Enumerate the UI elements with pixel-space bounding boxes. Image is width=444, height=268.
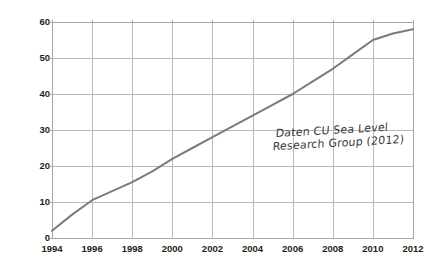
x-tick-label: 2006 <box>271 243 315 254</box>
x-tick-label: 2000 <box>150 243 194 254</box>
x-tick-label: 1994 <box>30 243 74 254</box>
x-tick-label: 1996 <box>70 243 114 254</box>
x-tick-label: 2010 <box>351 243 395 254</box>
x-tick-label: 2008 <box>311 243 355 254</box>
sea-level-line-chart: Erhöhung Meeresspiegel in mm 01020304050… <box>0 0 444 268</box>
x-tick-label: 2004 <box>231 243 275 254</box>
x-tick-label: 2002 <box>190 243 234 254</box>
x-tick-label: 1998 <box>110 243 154 254</box>
x-axis-tick-labels: 1994199619982000200220042006200820102012 <box>0 243 444 257</box>
x-tick-label: 2012 <box>391 243 435 254</box>
